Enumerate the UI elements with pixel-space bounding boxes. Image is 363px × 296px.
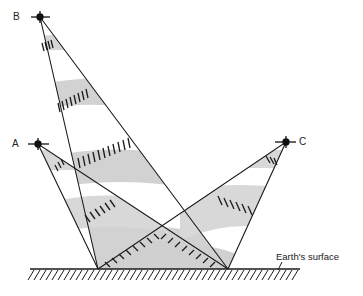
satellite-a-label: A bbox=[12, 139, 19, 149]
satellite-b-label: B bbox=[13, 12, 20, 22]
satellite-b-icon bbox=[31, 11, 50, 23]
earth-surface-label: Earth's surface bbox=[276, 252, 339, 262]
satellite-a-icon bbox=[28, 138, 49, 150]
satellite-c-label: C bbox=[299, 137, 306, 147]
ground-hatching bbox=[28, 270, 298, 280]
satellite-c-icon bbox=[275, 136, 296, 148]
